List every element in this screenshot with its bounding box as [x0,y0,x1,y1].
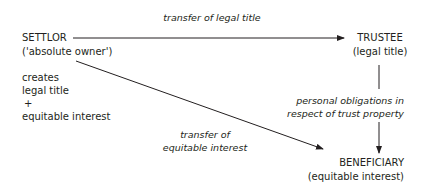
settlor-note-line: equitable interest [22,111,111,123]
node-settlor-sublabel: ('absolute owner') [22,46,112,58]
node-beneficiary: BENEFICIARY [300,157,404,169]
edge-label-transfer-equitable-interest: equitable interest [150,142,260,154]
node-trustee-sublabel: (legal title) [345,46,415,58]
edge-label-transfer-legal-title: transfer of legal title [142,12,282,24]
node-beneficiary-sublabel: (equitable interest) [290,171,404,183]
node-settlor: SETTLOR [22,32,67,44]
edge-label-personal-obligations: personal obligations in [260,95,404,107]
node-trustee: TRUSTEE [350,32,410,44]
settlor-note-line: creates [22,72,59,84]
edge-label-personal-obligations: respect of trust property [260,108,404,120]
settlor-note-line: legal title [22,85,69,97]
settlor-note-line: + [24,98,32,110]
edge-label-transfer-equitable-interest: transfer of [150,129,260,141]
